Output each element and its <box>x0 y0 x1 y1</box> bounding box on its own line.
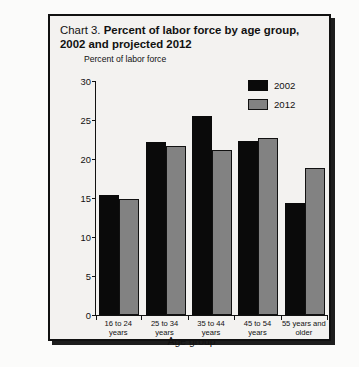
plot-area: 051015202530 <box>95 81 328 316</box>
bar-2002-0[interactable] <box>99 195 119 315</box>
x-axis-category-label-line: 16 to 24 years <box>95 319 141 337</box>
y-axis-tick-label: 0 <box>86 310 91 321</box>
y-axis-tick-label: 20 <box>81 154 91 165</box>
bar-2002-4[interactable] <box>285 203 305 315</box>
x-axis-category-label-line: 35 to 44 years <box>188 319 234 337</box>
scanned-page: Chart 3. Percent of labor force by age g… <box>0 0 359 367</box>
x-axis-category-label: 35 to 44 years <box>188 319 234 337</box>
bar-groups <box>96 81 328 315</box>
bar-group <box>96 81 142 315</box>
x-axis-category-label: 16 to 24 years <box>95 319 141 337</box>
chart-frame: Chart 3. Percent of labor force by age g… <box>48 14 331 341</box>
x-axis-category-label-line: 45 to 54 years <box>234 319 280 337</box>
x-axis-category-label-line: 25 to 34 years <box>141 319 187 337</box>
bar-2002-1[interactable] <box>146 142 166 315</box>
bar-2012-3[interactable] <box>258 138 278 315</box>
bar-2012-4[interactable] <box>305 168 325 315</box>
x-axis-category-label: 25 to 34 years <box>141 319 187 337</box>
y-axis-tick-label: 10 <box>81 232 91 243</box>
bar-group <box>142 81 188 315</box>
bar-2012-0[interactable] <box>119 199 139 315</box>
bar-group <box>235 81 281 315</box>
chart-title-prefix: Chart 3. <box>60 24 101 36</box>
chart-title-line-1: Chart 3. Percent of labor force by age g… <box>60 23 328 37</box>
y-axis-tick-label: 25 <box>81 115 91 126</box>
y-axis-tick-label: 5 <box>86 271 91 282</box>
x-axis-category-labels: 16 to 24 years25 to 34 years35 to 44 yea… <box>95 319 327 337</box>
y-axis-title: Percent of labor force <box>84 54 166 64</box>
bar-2002-2[interactable] <box>192 116 212 315</box>
x-axis-tick-mark <box>327 316 328 320</box>
y-axis-tick-label: 15 <box>81 193 91 204</box>
bar-group <box>282 81 328 315</box>
bar-group <box>189 81 235 315</box>
bar-2012-2[interactable] <box>212 150 232 315</box>
x-axis-category-label: 45 to 54 years <box>234 319 280 337</box>
chart-title: Chart 3. Percent of labor force by age g… <box>60 23 328 51</box>
x-axis-category-label: 55 years andolder <box>281 319 327 337</box>
bar-2002-3[interactable] <box>238 141 258 315</box>
x-axis-title: Age group <box>50 336 333 347</box>
x-axis-category-label-line: 55 years and <box>281 319 327 328</box>
bar-2012-1[interactable] <box>166 146 186 315</box>
chart-title-main: Percent of labor force by age group, <box>104 24 300 36</box>
chart-title-line-2: 2002 and projected 2012 <box>60 37 328 51</box>
y-axis-tick-label: 30 <box>81 76 91 87</box>
